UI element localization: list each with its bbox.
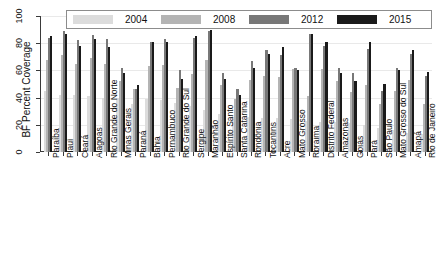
legend-swatch xyxy=(161,15,201,24)
y-tick-label: 60 xyxy=(14,57,24,83)
x-tick-label: Pará xyxy=(370,140,379,158)
x-axis-labels: ParaíbaPiauíCearáAlagoasRio Grande do No… xyxy=(0,156,436,267)
x-tick-label: Piauí xyxy=(66,139,75,158)
x-tick-label: Bahia xyxy=(153,136,162,158)
bar-chart: BF Percent Coverage 020406080100 Paraíba… xyxy=(0,0,436,267)
bar xyxy=(65,34,67,152)
x-tick-label: Mato Grosso xyxy=(298,109,307,158)
x-tick-label: Santa Catarina xyxy=(240,101,249,158)
x-tick-label: Roraima xyxy=(312,126,321,158)
x-tick-label: Ceará xyxy=(81,135,90,158)
x-tick-label: Maranhão xyxy=(211,120,220,158)
legend-entry: 2008 xyxy=(161,14,249,25)
y-tick-label: 80 xyxy=(14,30,24,56)
bar xyxy=(282,47,284,152)
bar-group xyxy=(73,16,81,152)
legend-entry: 2012 xyxy=(249,14,337,25)
x-tick-label: Rio Grande do Norte xyxy=(110,80,119,158)
x-tick-label: Amapá xyxy=(414,131,423,158)
x-tick-label: Espírito Santo xyxy=(226,105,235,158)
x-tick-label: Goiás xyxy=(356,136,365,158)
legend-swatch xyxy=(73,15,113,24)
y-tick-label: 100 xyxy=(14,3,24,29)
y-tick-label: 20 xyxy=(14,112,24,138)
x-tick-label: Sergipe xyxy=(197,129,206,158)
legend-entry: 2015 xyxy=(337,14,425,25)
x-tick-label: Amazonas xyxy=(341,118,350,158)
x-tick-label: Alagoas xyxy=(95,127,104,158)
x-tick-label: São Paulo xyxy=(385,119,394,158)
legend-swatch xyxy=(249,15,289,24)
x-tick-label: Distrito Federal xyxy=(327,100,336,158)
legend-label: 2008 xyxy=(213,14,235,25)
legend-label: 2015 xyxy=(389,14,411,25)
x-tick-label: Acre xyxy=(283,141,292,158)
x-tick-label: Rondônia xyxy=(254,122,263,158)
x-tick-label: Paraná xyxy=(139,131,148,158)
bar xyxy=(369,42,371,152)
x-tick-label: Paraíba xyxy=(52,128,61,158)
legend-swatch xyxy=(337,15,377,24)
x-tick-label: Pernambuco xyxy=(168,110,177,158)
x-tick-label: Tocantins xyxy=(269,122,278,158)
x-tick-label: Rio Grande do Sul xyxy=(182,88,191,158)
bar-group xyxy=(363,16,371,152)
chart-legend: 2004200820122015 xyxy=(66,10,432,29)
x-tick-label: Mato Grosso do Sul xyxy=(399,83,408,158)
legend-entry: 2004 xyxy=(73,14,161,25)
legend-label: 2012 xyxy=(301,14,323,25)
y-tick-label: 40 xyxy=(14,85,24,111)
x-tick-label: Minas Gerais xyxy=(124,108,133,158)
y-tick-mark xyxy=(36,152,40,153)
legend-label: 2004 xyxy=(125,14,147,25)
x-tick-label: Rio de Janeiro xyxy=(428,103,436,158)
